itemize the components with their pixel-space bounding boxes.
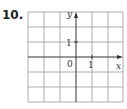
coordinate-grid: y x 1 0 1 bbox=[0, 0, 127, 109]
x-tick-label: 1 bbox=[88, 60, 94, 70]
x-axis-label: x bbox=[116, 61, 121, 71]
y-axis-label: y bbox=[66, 9, 73, 19]
x-axis-arrow-icon bbox=[117, 55, 123, 59]
y-axis-arrow-icon bbox=[74, 12, 78, 18]
y-tick-label: 1 bbox=[66, 38, 72, 48]
origin-label: 0 bbox=[67, 59, 73, 69]
